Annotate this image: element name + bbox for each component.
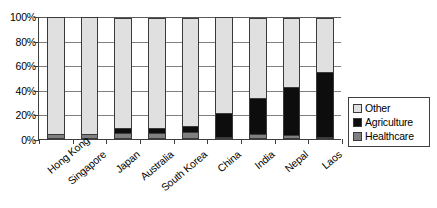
stacked-bar-chart: 0%20%40%60%80%100% Hong KongSingaporeJap… <box>0 0 437 208</box>
y-axis-tick-label: 60% <box>0 61 36 72</box>
plot-area <box>38 17 341 140</box>
bar-segment-other[interactable] <box>47 17 65 135</box>
y-axis-tick-label: 20% <box>0 110 36 121</box>
legend-item-agriculture[interactable]: Agriculture <box>353 115 426 129</box>
legend-label: Agriculture <box>365 116 413 128</box>
bar-segment-other[interactable] <box>81 17 99 135</box>
bars-layer <box>39 17 341 139</box>
bar-segment-healthcare[interactable] <box>182 132 200 139</box>
bar-south-korea[interactable] <box>182 16 200 139</box>
bar-laos[interactable] <box>316 16 334 139</box>
y-axis-tick-label: 0% <box>0 135 36 146</box>
legend-swatch-icon <box>353 132 362 141</box>
bar-segment-other[interactable] <box>215 17 233 114</box>
bar-segment-healthcare[interactable] <box>316 137 334 139</box>
bar-australia[interactable] <box>148 16 166 139</box>
legend-swatch-icon <box>353 118 362 127</box>
y-axis-tick-labels: 0%20%40%60%80%100% <box>0 10 36 146</box>
bar-segment-healthcare[interactable] <box>47 134 65 139</box>
bar-segment-healthcare[interactable] <box>249 134 267 139</box>
y-axis-tick-label: 80% <box>0 36 36 47</box>
bar-segment-agriculture[interactable] <box>283 87 301 136</box>
y-axis-tick-mark <box>34 17 39 18</box>
bar-segment-healthcare[interactable] <box>114 133 132 139</box>
bar-segment-healthcare[interactable] <box>283 135 301 139</box>
bar-segment-other[interactable] <box>283 18 301 88</box>
bar-segment-other[interactable] <box>148 18 166 129</box>
bar-segment-agriculture[interactable] <box>249 98 267 135</box>
bar-segment-other[interactable] <box>316 18 334 73</box>
y-axis-tick-mark <box>34 66 39 67</box>
bar-hong-kong[interactable] <box>47 16 65 139</box>
bar-segment-other[interactable] <box>182 18 200 127</box>
y-axis-tick-label: 100% <box>0 12 36 23</box>
legend-item-healthcare[interactable]: Healthcare <box>353 129 426 143</box>
legend-item-other[interactable]: Other <box>353 101 426 115</box>
bar-segment-other[interactable] <box>249 18 267 99</box>
x-axis-tick-mark <box>342 139 343 144</box>
y-axis-tick-mark <box>34 115 39 116</box>
y-axis-tick-mark <box>34 91 39 92</box>
bar-segment-agriculture[interactable] <box>215 113 233 138</box>
legend-label: Healthcare <box>365 130 414 142</box>
bar-segment-other[interactable] <box>114 18 132 129</box>
bar-segment-healthcare[interactable] <box>148 133 166 139</box>
bar-singapore[interactable] <box>81 16 99 139</box>
legend-label: Other <box>365 102 390 114</box>
y-axis-tick-label: 40% <box>0 85 36 96</box>
x-axis-tick-label: Hong Kong <box>45 148 75 176</box>
bar-nepal[interactable] <box>283 16 301 139</box>
y-axis-tick-mark <box>34 42 39 43</box>
chart-legend: OtherAgricultureHealthcare <box>348 97 430 147</box>
bar-china[interactable] <box>215 16 233 139</box>
bar-japan[interactable] <box>114 16 132 139</box>
legend-swatch-icon <box>353 104 362 113</box>
bar-india[interactable] <box>249 16 267 139</box>
bar-segment-agriculture[interactable] <box>316 72 334 137</box>
bar-segment-healthcare[interactable] <box>215 137 233 139</box>
x-axis-tick-labels: Hong KongSingaporeJapanAustraliaSouth Ko… <box>38 140 341 208</box>
